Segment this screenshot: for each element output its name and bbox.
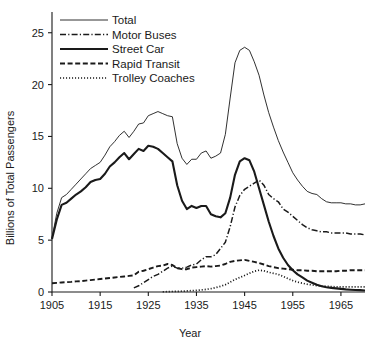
y-tick-label: 20 xyxy=(32,79,44,91)
y-tick-label: 0 xyxy=(38,286,44,298)
series-line-street-car xyxy=(52,146,365,291)
x-tick-label: 1935 xyxy=(184,299,208,311)
axes xyxy=(48,12,365,296)
x-tick-label: 1945 xyxy=(232,299,256,311)
chart-legend: TotalMotor BusesStreet CarRapid TransitT… xyxy=(60,14,195,84)
x-tick-label: 1925 xyxy=(136,299,160,311)
x-tick-label: 1915 xyxy=(88,299,112,311)
data-series-group xyxy=(52,47,365,292)
x-tick-label: 1905 xyxy=(40,299,64,311)
chart-figure: 05101520251905191519251935194519551965 T… xyxy=(0,0,372,350)
y-tick-label: 15 xyxy=(32,130,44,142)
x-axis-label: Year xyxy=(179,327,202,339)
legend-label-motor-buses: Motor Buses xyxy=(112,29,177,41)
chart-canvas: 05101520251905191519251935194519551965 T… xyxy=(0,0,372,350)
series-line-rapid-transit xyxy=(52,260,365,283)
x-tick-label: 1955 xyxy=(281,299,305,311)
y-axis-label: Billions of Total Passengers xyxy=(4,110,16,245)
y-tick-label: 10 xyxy=(32,182,44,194)
y-tick-label: 25 xyxy=(32,27,44,39)
y-tick-label: 5 xyxy=(38,234,44,246)
legend-label-trolley-coaches: Trolley Coaches xyxy=(112,72,195,84)
legend-label-rapid-transit: Rapid Transit xyxy=(112,58,181,70)
axis-lines xyxy=(52,12,365,292)
legend-label-street-car: Street Car xyxy=(112,43,165,55)
x-tick-label: 1965 xyxy=(329,299,353,311)
legend-label-total: Total xyxy=(112,14,136,26)
